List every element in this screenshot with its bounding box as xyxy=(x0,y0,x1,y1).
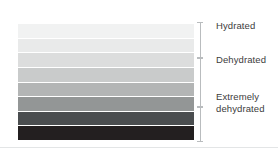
colour-band-8 xyxy=(18,126,194,140)
bracket-extremely-dehydrated xyxy=(200,107,206,142)
bracket-dehydrated xyxy=(200,58,206,107)
group-bracket-column xyxy=(196,22,206,142)
bottom-divider-rule xyxy=(0,147,278,148)
label-extremely-dehydrated: Extremely dehydrated xyxy=(216,91,265,115)
urine-colour-swatch-stack xyxy=(18,24,194,140)
label-dehydrated: Dehydrated xyxy=(216,54,266,66)
label-hydrated: Hydrated xyxy=(216,20,255,32)
colour-band-1 xyxy=(18,24,194,39)
colour-band-6 xyxy=(18,97,194,112)
colour-band-4 xyxy=(18,68,194,83)
colour-band-3 xyxy=(18,53,194,68)
bracket-hydrated xyxy=(200,22,206,58)
hydration-colour-chart-figure: Hydrated Dehydrated Extremely dehydrated xyxy=(0,0,278,156)
colour-band-5 xyxy=(18,83,194,98)
colour-band-2 xyxy=(18,39,194,54)
colour-band-7 xyxy=(18,112,194,127)
